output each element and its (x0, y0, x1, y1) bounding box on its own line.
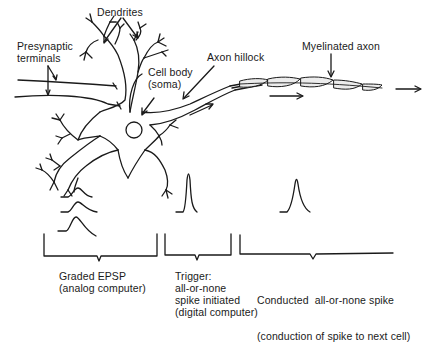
cell-body-label-line2: (soma) (148, 78, 193, 90)
cell-body-label-line1: Cell body (148, 66, 193, 78)
caption-line: Conducted all-or-none spike (257, 294, 410, 306)
caption-line: all-or-none (175, 282, 258, 294)
axon-hillock-label: Axon hillock (207, 51, 264, 63)
myelinated-axon-label: Myelinated axon (302, 40, 380, 52)
bracket-graded-epsp (44, 234, 157, 261)
caption-line: (digital computer) (175, 306, 258, 318)
presynaptic-label-line2: terminals (17, 52, 73, 64)
cell-body-label: Cell body (soma) (148, 66, 193, 90)
dendrites-upper (80, 14, 168, 72)
caption-line: (analog computer) (59, 282, 146, 294)
bracket-trigger (165, 234, 231, 260)
dendrites-lower-left (36, 114, 78, 196)
conducted-spike (280, 180, 310, 213)
caption-line: Graded EPSP (59, 270, 146, 282)
presynaptic-label-line1: Presynaptic (17, 40, 73, 52)
trigger-spike (176, 174, 197, 212)
presynaptic-terminals-label: Presynaptic terminals (17, 40, 73, 64)
presynaptic-terminals (15, 66, 121, 109)
cell-body-pointer (142, 98, 154, 114)
caption-line: Trigger: (175, 270, 258, 282)
stage-caption-trigger: Trigger: all-or-none spike initiated (di… (175, 270, 258, 318)
stage-caption-graded-epsp: Graded EPSP (analog computer) (59, 270, 146, 294)
stage-caption-conducted: Conducted all-or-none spike (conduction … (257, 270, 410, 346)
nucleus (126, 122, 142, 138)
dendrites-label: Dendrites (97, 6, 143, 18)
caption-line: (conduction of spike to next cell) (257, 330, 410, 342)
bracket-conducted (240, 235, 393, 259)
caption-line: spike initiated (175, 294, 258, 306)
direction-arrows (190, 86, 421, 115)
